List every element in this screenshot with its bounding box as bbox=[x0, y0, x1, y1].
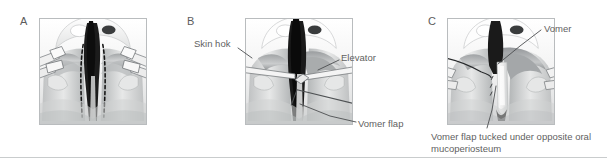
retractor-right-icon bbox=[120, 46, 147, 83]
panel-a-instruments bbox=[40, 19, 146, 124]
panel-b-letter: B bbox=[187, 15, 195, 27]
panel-b-instruments bbox=[246, 19, 352, 124]
retractor-right-icon bbox=[544, 56, 555, 89]
panel-c-frame bbox=[447, 18, 555, 125]
skin-hook-icon bbox=[245, 58, 300, 82]
panel-c-letter: C bbox=[428, 15, 436, 27]
panel-a-letter: A bbox=[20, 15, 28, 27]
figure-panels-container: A bbox=[0, 0, 607, 166]
traction-line-icon bbox=[291, 90, 353, 114]
panel-c: C bbox=[395, 0, 607, 160]
panel-c-instruments bbox=[448, 19, 554, 124]
retractor-left-icon bbox=[39, 46, 66, 83]
label-elevator: Elevator bbox=[341, 52, 376, 64]
panel-a-frame bbox=[39, 18, 147, 125]
label-vomer-flap-tucked: Vomer flap tucked under opposite oral mu… bbox=[431, 131, 607, 155]
label-skin-hook: Skin hok bbox=[194, 38, 230, 50]
panel-a: A bbox=[0, 0, 180, 140]
figure-bottom-divider bbox=[0, 157, 607, 158]
panel-b: B bbox=[180, 0, 395, 140]
panel-b-frame bbox=[245, 18, 353, 125]
label-vomer: Vomer bbox=[544, 23, 571, 35]
